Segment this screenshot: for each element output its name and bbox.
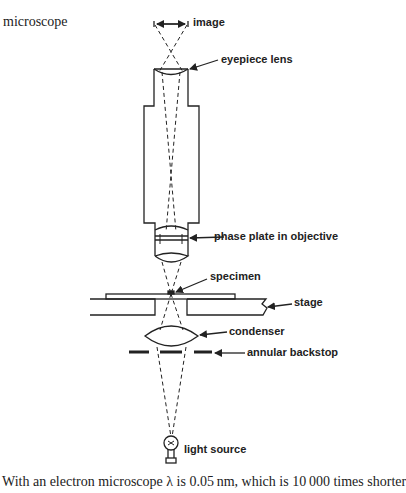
objective-lens-icon [155, 253, 188, 262]
label-annular-backstop: annular backstop [247, 346, 338, 358]
specimen-icon [168, 291, 174, 294]
eyepiece-lens-icon [154, 69, 188, 75]
eyepiece-leader [190, 60, 218, 69]
label-stage: stage [294, 296, 323, 308]
label-eyepiece-lens: eyepiece lens [221, 53, 293, 65]
label-condenser: condenser [229, 325, 285, 337]
label-light-source: light source [184, 443, 246, 455]
body-text: With an electron microscope λ is 0.05 nm… [2, 474, 406, 490]
image-arrow-icon [154, 21, 188, 27]
label-image: image [193, 16, 225, 28]
stage [90, 299, 267, 315]
condenser-leader [200, 332, 227, 335]
stage-leader [268, 304, 292, 307]
microscope-tube [144, 69, 199, 256]
condenser-lens-icon [145, 326, 198, 346]
label-phase-plate: phase plate in objective [214, 230, 338, 242]
light-rays [155, 25, 187, 437]
light-bulb-icon [164, 436, 178, 463]
label-specimen: specimen [210, 270, 261, 282]
specimen-leader [176, 279, 207, 292]
